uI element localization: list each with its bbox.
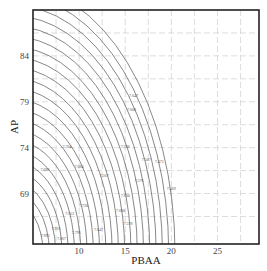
contour-line	[13, 120, 93, 252]
contour-label: 7.576	[134, 178, 143, 183]
contour-label: 7.796	[72, 230, 81, 235]
contour-label: 7.684	[75, 164, 84, 169]
contour-label: 7.652	[65, 211, 74, 216]
contour-lines	[13, 0, 175, 252]
contour-label: 7.720	[121, 144, 130, 149]
contour-label: 7.704	[63, 144, 72, 149]
contour-label: 7.720	[79, 203, 88, 208]
contour-label: 7.696	[40, 167, 49, 172]
contour-label: 7.630	[121, 193, 130, 198]
contour-label: 7.680	[116, 208, 125, 213]
y-axis-label: AP	[8, 120, 20, 134]
contour-line	[13, 171, 62, 252]
contour-label: 7.993	[40, 233, 49, 238]
contour-label: 7.916	[51, 226, 60, 231]
contour-label: 7.647	[94, 227, 103, 232]
y-axis-ticks: 69747984	[20, 51, 30, 199]
contour-label: 7.608	[127, 107, 136, 112]
contour-labels: 7.6477.6087.7047.7207.5077.4717.6967.684…	[40, 93, 175, 241]
contour-label: 7.578	[123, 221, 132, 226]
contour-label: 7.867	[57, 236, 66, 241]
contour-label: 7.469	[167, 186, 176, 191]
contour-line	[13, 0, 169, 252]
contour-label: 7.507	[142, 157, 151, 162]
x-axis-label: PBAA	[131, 254, 160, 266]
x-tick-label: 15	[121, 246, 131, 256]
y-tick-label: 79	[20, 97, 30, 107]
y-tick-label: 84	[20, 51, 30, 61]
x-tick-label: 10	[75, 246, 85, 256]
contour-line	[13, 192, 49, 252]
contour-label: 7.567	[99, 173, 108, 178]
x-tick-label: 25	[213, 246, 223, 256]
contour-label: 7.647	[129, 93, 138, 98]
y-tick-label: 69	[20, 189, 30, 199]
x-tick-label: 20	[167, 246, 177, 256]
contour-line	[13, 68, 125, 252]
contour-chart: 7.6477.6087.7047.7207.5077.4717.6967.684…	[0, 0, 267, 271]
contour-label: 7.471	[155, 159, 164, 164]
y-tick-label: 74	[20, 143, 30, 153]
